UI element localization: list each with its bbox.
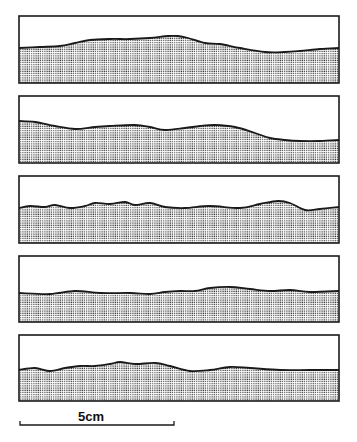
scale-bar-label: 5cm (78, 409, 104, 424)
profile-panel-2 (19, 96, 339, 163)
profile-panel-4 (19, 256, 339, 322)
profile-panel-1 (19, 16, 339, 83)
sediment-fill (19, 36, 339, 83)
profile-panels (19, 16, 339, 401)
surface-profiles-figure (0, 0, 357, 442)
profile-panel-3 (19, 176, 339, 243)
profile-panel-5 (19, 335, 339, 401)
